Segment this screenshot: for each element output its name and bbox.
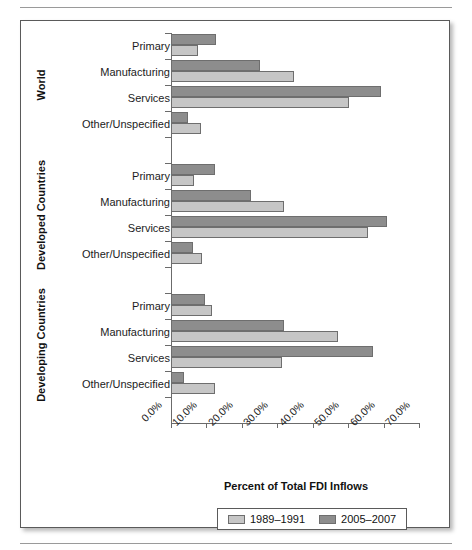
category-label: Services xyxy=(0,352,170,364)
category-label: Services xyxy=(0,92,170,104)
legend-swatch-icon-2005-2007 xyxy=(319,515,336,524)
y-axis-category-tick xyxy=(165,397,171,398)
bar-2005-2007 xyxy=(171,34,216,45)
legend-item-2005-2007: 2005–2007 xyxy=(319,513,396,525)
bar-2005-2007 xyxy=(171,320,284,331)
bar-2005-2007 xyxy=(171,112,188,123)
figure-frame: Percent of Total FDI Inflows 1989–1991 2… xyxy=(20,20,450,528)
bar-1989-1991 xyxy=(171,175,194,186)
x-axis-tick-label: 70.0% xyxy=(371,398,412,439)
category-label: Primary xyxy=(0,40,170,52)
legend-label-1989-1991: 1989–1991 xyxy=(250,513,305,525)
bar-2005-2007 xyxy=(171,190,251,201)
bar-1989-1991 xyxy=(171,305,212,316)
bar-chart-plot-area: Percent of Total FDI Inflows 1989–1991 2… xyxy=(21,21,449,527)
figure-page: Percent of Total FDI Inflows 1989–1991 2… xyxy=(0,0,472,550)
category-label: Other/Unspecified xyxy=(0,248,170,260)
bar-1989-1991 xyxy=(171,331,338,342)
group-label: Developing Countries xyxy=(35,278,47,412)
chart-legend: 1989–1991 2005–2007 xyxy=(217,508,407,530)
group-label: World xyxy=(35,18,47,152)
x-axis-tick-label: 0.0% xyxy=(123,398,164,439)
x-axis-tick xyxy=(419,423,420,428)
bottom-rule xyxy=(20,543,452,544)
bar-2005-2007 xyxy=(171,372,184,383)
bar-1989-1991 xyxy=(171,253,202,264)
bar-2005-2007 xyxy=(171,294,205,305)
bar-2005-2007 xyxy=(171,86,381,97)
category-label: Primary xyxy=(0,170,170,182)
bar-2005-2007 xyxy=(171,242,193,253)
legend-label-2005-2007: 2005–2007 xyxy=(341,513,396,525)
bar-1989-1991 xyxy=(171,45,198,56)
bar-2005-2007 xyxy=(171,346,373,357)
bar-1989-1991 xyxy=(171,201,284,212)
x-axis-tick-label: 20.0% xyxy=(194,398,235,439)
category-label: Other/Unspecified xyxy=(0,378,170,390)
bar-1989-1991 xyxy=(171,123,201,134)
bar-1989-1991 xyxy=(171,357,282,368)
legend-item-1989-1991: 1989–1991 xyxy=(228,513,305,525)
x-axis-tick-label: 30.0% xyxy=(229,398,270,439)
category-label: Manufacturing xyxy=(0,196,170,208)
bar-1989-1991 xyxy=(171,227,368,238)
category-label: Manufacturing xyxy=(0,66,170,78)
x-axis-tick-label: 60.0% xyxy=(336,398,377,439)
category-label: Manufacturing xyxy=(0,326,170,338)
bar-1989-1991 xyxy=(171,383,215,394)
bar-2005-2007 xyxy=(171,164,215,175)
bar-2005-2007 xyxy=(171,60,260,71)
x-axis-tick-label: 40.0% xyxy=(265,398,306,439)
top-rule xyxy=(20,7,452,8)
y-axis-category-tick xyxy=(165,137,171,138)
x-axis-tick-label: 50.0% xyxy=(300,398,341,439)
y-axis-category-tick xyxy=(165,267,171,268)
bar-1989-1991 xyxy=(171,71,294,82)
x-axis-title: Percent of Total FDI Inflows xyxy=(171,480,421,492)
bar-1989-1991 xyxy=(171,97,349,108)
legend-swatch-icon-1989-1991 xyxy=(228,515,245,524)
category-label: Other/Unspecified xyxy=(0,118,170,130)
bar-2005-2007 xyxy=(171,216,387,227)
category-label: Primary xyxy=(0,300,170,312)
x-axis-tick-label: 10.0% xyxy=(158,398,199,439)
group-label: Developed Countries xyxy=(35,148,47,282)
category-label: Services xyxy=(0,222,170,234)
